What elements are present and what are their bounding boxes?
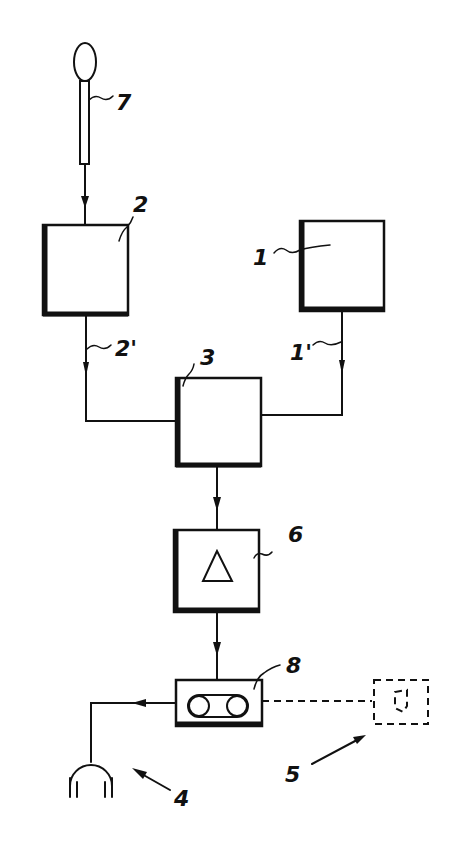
connection-7-to-2 (81, 164, 89, 225)
label-3: 3 (200, 345, 215, 370)
block-diagram: 7 2 2' 1 1' 3 (0, 0, 449, 841)
remote-device-5: 5 (285, 680, 428, 787)
label-4: 4 (173, 786, 189, 811)
block-1: 1 (253, 221, 384, 311)
label-1: 1 (253, 245, 268, 270)
microphone-7: 7 (74, 43, 132, 164)
label-7: 7 (116, 90, 132, 115)
label-8: 8 (286, 653, 301, 678)
block-2: 2 (43, 192, 148, 316)
amplifier-6: 6 (174, 522, 303, 612)
connection-6-to-8 (213, 612, 221, 680)
headphones-4: 4 (70, 765, 189, 811)
block-3: 3 (176, 345, 261, 467)
label-2-prime: 2' (115, 336, 137, 361)
connection-8-to-4 (91, 699, 176, 762)
connection-2-to-3: 2' (83, 316, 176, 421)
label-2: 2 (133, 192, 148, 217)
label-1-prime: 1' (290, 340, 312, 365)
label-6: 6 (288, 522, 303, 547)
cassette-recorder-8: 8 (176, 653, 301, 726)
connection-3-to-6 (213, 467, 221, 530)
label-5: 5 (285, 762, 300, 787)
connection-1-to-3: 1' (261, 311, 345, 415)
